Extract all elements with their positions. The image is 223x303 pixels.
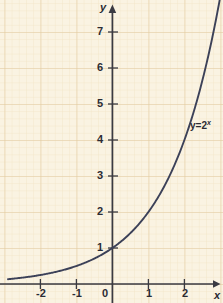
- curve-equation-label: y=2x: [190, 121, 211, 131]
- y-tick-label-2: 2: [94, 206, 106, 217]
- x-tick-label-neg2: -2: [31, 288, 51, 299]
- y-tick-label-7: 7: [94, 26, 106, 37]
- origin-label: 0: [99, 288, 111, 299]
- y-tick-label-4: 4: [94, 134, 106, 145]
- exponential-function-graph: y x 7 6 5 4 3 2 1 0 -2 -1 1 2 y=2x: [0, 0, 223, 303]
- x-tick-label-1: 1: [142, 288, 156, 299]
- grid-major-lines: [0, 0, 223, 303]
- y-tick-label-1: 1: [94, 242, 106, 253]
- y-tick-label-6: 6: [94, 62, 106, 73]
- x-axis-label: x: [214, 290, 220, 301]
- curve-equation-exponent: x: [207, 119, 211, 126]
- x-tick-label-2: 2: [178, 288, 192, 299]
- graph-canvas: [0, 0, 223, 303]
- plot-area: [0, 0, 223, 303]
- y-tick-label-5: 5: [94, 98, 106, 109]
- x-tick-label-neg1: -1: [67, 288, 87, 299]
- curve-equation-base: y=2: [190, 120, 207, 131]
- y-axis-label: y: [100, 2, 106, 13]
- y-tick-label-3: 3: [94, 170, 106, 181]
